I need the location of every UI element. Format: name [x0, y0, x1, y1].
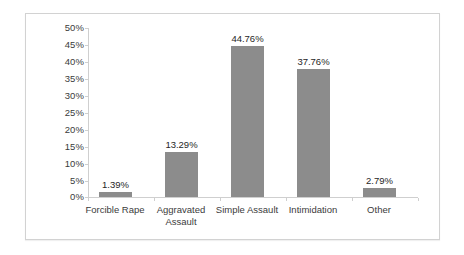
- x-tick-mark-3: [286, 198, 287, 201]
- bar-value-label-forcible-rape: 1.39%: [95, 179, 136, 190]
- x-tick-mark-1: [154, 198, 155, 201]
- y-tick-label-50: 50%: [50, 23, 84, 33]
- y-tick-label-0: 0%: [50, 192, 84, 202]
- y-tick-label-30: 30%: [50, 91, 84, 101]
- bar-intimidation[interactable]: [297, 69, 330, 197]
- x-category-label-line: Simple Assault: [211, 204, 283, 216]
- bar-other[interactable]: [363, 188, 396, 197]
- x-category-label-simple-assault: Simple Assault: [211, 204, 283, 216]
- x-category-label-line: Intimidation: [277, 204, 349, 216]
- bar-value-label-aggravated-assault: 13.29%: [159, 139, 204, 150]
- x-axis-line: [88, 197, 418, 198]
- y-tick-label-35: 35%: [50, 74, 84, 84]
- y-tick-label-40: 40%: [50, 57, 84, 67]
- bar-chart-plot-area: 50% 45% 40% 35% 30% 25% 20% 15% 10% 5% 0…: [0, 0, 464, 255]
- bar-simple-assault[interactable]: [231, 46, 264, 197]
- x-category-label-forcible-rape: Forcible Rape: [79, 204, 151, 216]
- x-category-label-line: Forcible Rape: [79, 204, 151, 216]
- y-axis-line: [88, 28, 89, 197]
- y-tick-label-20: 20%: [50, 125, 84, 135]
- x-category-label-aggravated-assault: Aggravated Assault: [145, 204, 217, 228]
- y-tick-label-25: 25%: [50, 108, 84, 118]
- bar-value-label-simple-assault: 44.76%: [225, 33, 270, 44]
- x-category-label-line: Other: [343, 204, 415, 216]
- x-tick-mark-5: [418, 198, 419, 201]
- y-tick-label-15: 15%: [50, 142, 84, 152]
- bar-value-label-intimidation: 37.76%: [291, 56, 336, 67]
- x-category-label-intimidation: Intimidation: [277, 204, 349, 216]
- y-tick-label-45: 45%: [50, 40, 84, 50]
- bar-forcible-rape[interactable]: [99, 192, 132, 197]
- x-category-label-other: Other: [343, 204, 415, 216]
- bar-aggravated-assault[interactable]: [165, 152, 198, 197]
- x-category-label-line: Assault: [145, 216, 217, 228]
- x-tick-mark-0: [88, 198, 89, 201]
- x-tick-mark-2: [220, 198, 221, 201]
- x-category-label-line: Aggravated: [145, 204, 217, 216]
- y-tick-label-10: 10%: [50, 159, 84, 169]
- y-tick-label-5: 5%: [50, 176, 84, 186]
- x-tick-mark-4: [352, 198, 353, 201]
- bar-value-label-other: 2.79%: [357, 175, 402, 186]
